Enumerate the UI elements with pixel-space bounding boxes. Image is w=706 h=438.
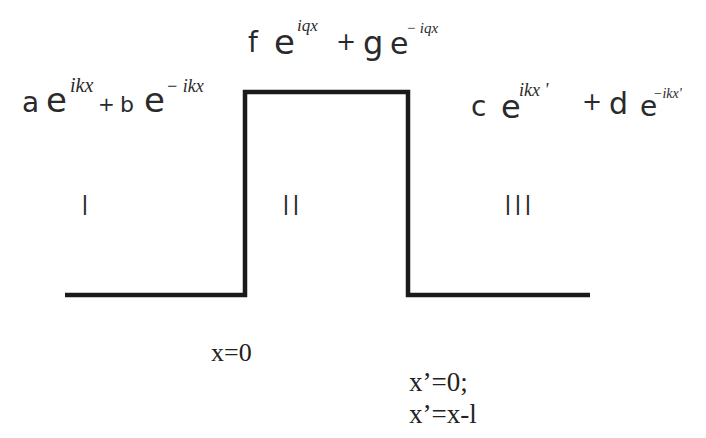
right-boundary-label-1: x’=0; (409, 367, 468, 398)
potential-profile (0, 0, 706, 438)
base-e: e (274, 22, 295, 62)
plus-sign: + (582, 88, 602, 116)
base-e: e (46, 80, 67, 120)
coef-d: d (609, 86, 628, 121)
exponent-1: iqx (297, 16, 318, 36)
exponent-2: − iqx (406, 20, 438, 37)
region-label-3: III (505, 188, 535, 222)
coef-f: f (248, 26, 258, 59)
coef-b: b (120, 92, 134, 117)
base-e: e (501, 88, 521, 126)
left-boundary-label: x=0 (211, 338, 252, 368)
plus-sign: + (336, 28, 356, 56)
exponent-2: −ikx' (653, 86, 682, 102)
coef-g: g (363, 24, 383, 62)
exponent-2: − ikx (166, 76, 204, 97)
region-label-1: I (82, 188, 92, 222)
exponent-1: ikx (70, 74, 93, 97)
coef-c: c (471, 90, 486, 123)
base-e: e (144, 80, 165, 120)
coef-a: a (22, 86, 39, 119)
right-boundary-label-2: x’=x-l (409, 399, 477, 430)
region-label-2: II (283, 188, 303, 222)
plus-sign: + (98, 92, 115, 116)
exponent-1: ikx ' (519, 80, 548, 101)
barrier-diagram: a e ikx + b e − ikx f e iqx + g e − iqx … (0, 0, 706, 438)
